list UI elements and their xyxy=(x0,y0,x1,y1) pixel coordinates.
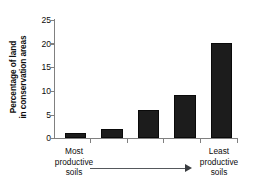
bar-2 xyxy=(101,129,123,139)
y-tick-label-5: 5 xyxy=(35,111,51,120)
bar-3 xyxy=(138,110,160,139)
x-tick-mark-3 xyxy=(163,139,164,143)
y-tick-label-15: 15 xyxy=(35,63,51,72)
y-tick-label-10: 10 xyxy=(35,87,51,96)
y-axis-title: Percentage of land in conservation areas xyxy=(6,14,32,140)
x-axis-label-right-line1: Least xyxy=(191,146,247,157)
y-tick-label-25: 25 xyxy=(35,16,51,25)
x-axis-label-left-line2: productive xyxy=(46,157,102,168)
x-axis-label-left-line3: soils xyxy=(46,167,102,178)
x-tick-mark-2 xyxy=(127,139,128,143)
y-tick-label-20: 20 xyxy=(35,40,51,49)
x-tick-mark-5 xyxy=(237,139,238,143)
x-axis-label-right-line2: productive xyxy=(191,157,247,168)
x-tick-mark-4 xyxy=(200,139,201,143)
bar-4 xyxy=(174,95,196,138)
y-axis-title-line2: in conservation areas xyxy=(19,35,29,118)
x-axis-label-left-line1: Most xyxy=(46,146,102,157)
y-axis-line xyxy=(54,19,55,139)
productivity-gradient-arrow-line xyxy=(90,168,186,169)
arrow-right-icon xyxy=(185,164,192,172)
bar-chart: Percentage of land in conservation areas… xyxy=(0,0,263,191)
x-tick-mark-1 xyxy=(90,139,91,143)
x-axis-label-most-productive: Most productive soils xyxy=(46,146,102,178)
x-axis-label-least-productive: Least productive soils xyxy=(191,146,247,178)
bar-5 xyxy=(211,43,233,138)
x-axis-line xyxy=(54,138,238,139)
bar-1 xyxy=(65,133,87,138)
x-axis-label-right-line3: soils xyxy=(191,167,247,178)
y-tick-label-0: 0 xyxy=(35,134,51,143)
